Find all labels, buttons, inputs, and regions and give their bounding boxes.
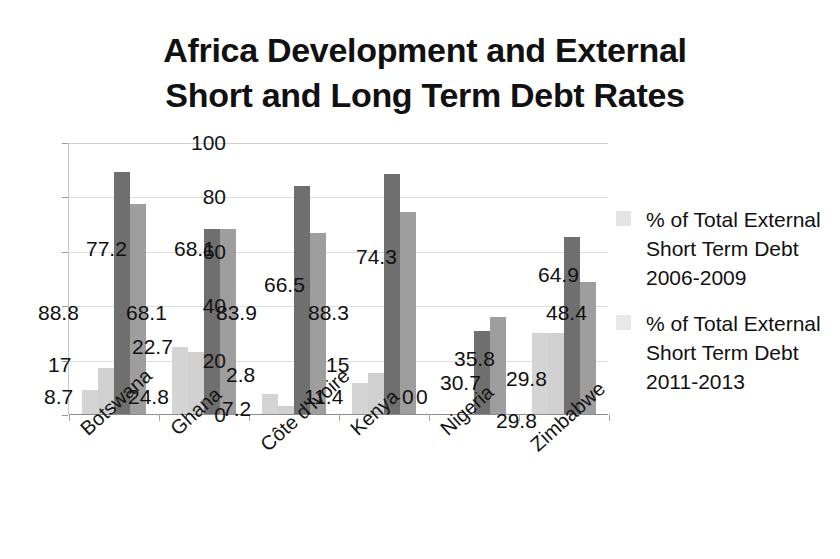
x-axis-tick-mark (429, 414, 430, 421)
gridline-80 (69, 197, 608, 198)
data-label: 7.2 (222, 398, 251, 419)
y-axis-tick-mark-80 (62, 197, 68, 198)
y-axis-tick-mark-60 (62, 252, 68, 253)
x-axis-tick-mark (69, 414, 70, 421)
bar[interactable] (262, 394, 278, 414)
bar[interactable] (294, 186, 310, 414)
y-axis-tick-mark-0 (62, 415, 68, 416)
data-label: 0 (416, 386, 428, 407)
y-axis-tick-mark-20 (62, 361, 68, 362)
data-label: 22.7 (132, 336, 173, 357)
legend-label-series-2: % of Total External Short Term Debt 2011… (646, 312, 821, 393)
data-label: 66.5 (264, 274, 305, 295)
y-axis-tick-mark-40 (62, 306, 68, 307)
chart-title-line-1: Africa Development and External (95, 28, 755, 73)
bar[interactable] (384, 174, 400, 414)
chart-title-line-2: Short and Long Term Debt Rates (95, 73, 755, 118)
y-axis-tick-label-100: 100 (176, 131, 226, 155)
chart-legend: % of Total External Short Term Debt 2006… (616, 206, 834, 415)
bar-group-kenya (352, 143, 416, 414)
x-axis-tick-mark (609, 414, 610, 421)
legend-swatch-series-1-icon (616, 211, 631, 226)
legend-item-series-2[interactable]: % of Total External Short Term Debt 2011… (616, 310, 834, 396)
legend-label-series-1: % of Total External Short Term Debt 2006… (646, 208, 821, 289)
data-label: 2.8 (226, 364, 255, 385)
data-label: 64.9 (538, 264, 579, 285)
chart-title: Africa Development and External Short an… (95, 28, 755, 118)
bar[interactable] (548, 333, 564, 414)
data-label: 68.1 (126, 302, 167, 323)
data-label: 29.8 (496, 410, 537, 431)
data-label: 88.3 (308, 302, 349, 323)
gridline-100 (69, 143, 608, 144)
x-axis-tick-mark (159, 414, 160, 421)
y-axis-tick-label-80: 80 (176, 185, 226, 209)
bar-chart: Africa Development and External Short an… (0, 0, 840, 559)
bar[interactable] (400, 212, 416, 414)
data-label: 88.8 (38, 302, 79, 323)
data-label: 48.4 (546, 302, 587, 323)
legend-item-series-1[interactable]: % of Total External Short Term Debt 2006… (616, 206, 834, 292)
data-label: 74.3 (356, 246, 397, 267)
data-label: 77.2 (86, 238, 127, 259)
data-label: 8.7 (44, 386, 73, 407)
y-axis-tick-label-60: 60 (176, 240, 226, 264)
data-label: 35.8 (454, 348, 495, 369)
y-axis-tick-label-20: 20 (176, 349, 226, 373)
y-axis-tick-mark-100 (62, 143, 68, 144)
data-label: 17 (48, 354, 71, 375)
legend-swatch-series-2-icon (616, 315, 631, 330)
data-label: 29.8 (506, 368, 547, 389)
y-axis-tick-label-40: 40 (176, 294, 226, 318)
data-label: 0 (402, 386, 414, 407)
gridline-60 (69, 252, 608, 253)
x-axis-tick-mark (339, 414, 340, 421)
